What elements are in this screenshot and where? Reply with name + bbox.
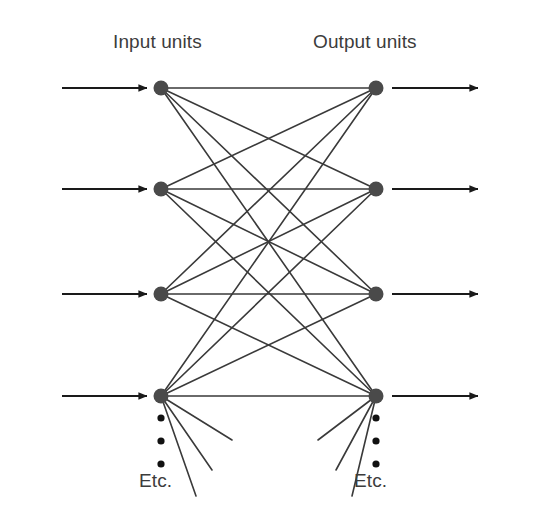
- output-unit-node: [369, 81, 384, 96]
- ellipsis-dots: [157, 414, 379, 467]
- partial-connection-stubs: [161, 396, 376, 496]
- partial-connection-stub: [336, 396, 376, 470]
- connection-lines: [161, 88, 376, 396]
- ellipsis-dot: [372, 460, 379, 467]
- partial-connection-stub: [161, 396, 232, 440]
- ellipsis-dot: [157, 460, 164, 467]
- output-units-label: Output units: [313, 32, 417, 51]
- ellipsis-dot: [372, 437, 379, 444]
- network-graphic: [0, 0, 535, 523]
- output-unit-node: [369, 287, 384, 302]
- ellipsis-dot: [157, 414, 164, 421]
- ellipsis-dot: [157, 437, 164, 444]
- input-unit-node: [154, 287, 169, 302]
- etc-label-output: Etc.: [354, 471, 387, 490]
- input-unit-node: [154, 389, 169, 404]
- output-unit-node: [369, 389, 384, 404]
- output-arrows: [392, 88, 478, 396]
- input-unit-node: [154, 182, 169, 197]
- ellipsis-dot: [372, 414, 379, 421]
- input-unit-node: [154, 81, 169, 96]
- output-unit-node: [369, 182, 384, 197]
- input-units-label: Input units: [113, 32, 202, 51]
- etc-label-input: Etc.: [139, 471, 172, 490]
- input-arrows: [62, 88, 147, 396]
- partial-connection-stub: [161, 396, 212, 470]
- network-diagram: Input units Output units Features Catego…: [0, 0, 535, 523]
